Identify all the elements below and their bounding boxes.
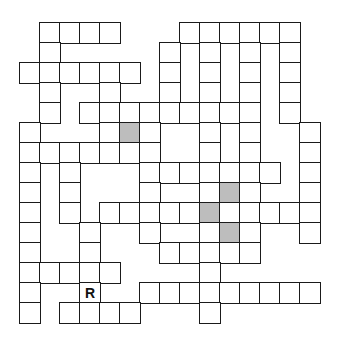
grid-cell[interactable] — [299, 182, 321, 204]
grid-cell[interactable] — [59, 162, 81, 184]
shaded-cell[interactable] — [119, 122, 141, 144]
grid-cell[interactable] — [219, 282, 241, 304]
grid-cell[interactable] — [39, 42, 61, 64]
grid-cell[interactable] — [299, 162, 321, 184]
grid-cell[interactable] — [199, 122, 221, 144]
grid-cell[interactable] — [159, 102, 181, 124]
grid-cell[interactable] — [59, 62, 81, 84]
grid-cell[interactable] — [139, 122, 161, 144]
grid-cell[interactable] — [279, 282, 301, 304]
grid-cell[interactable] — [239, 202, 261, 224]
grid-cell[interactable] — [19, 182, 41, 204]
grid-cell[interactable] — [99, 82, 121, 104]
grid-cell[interactable] — [59, 202, 81, 224]
grid-cell[interactable] — [59, 142, 81, 164]
grid-cell[interactable] — [259, 202, 281, 224]
grid-cell[interactable] — [139, 202, 161, 224]
grid-cell[interactable] — [299, 282, 321, 304]
grid-cell[interactable] — [139, 182, 161, 204]
grid-cell[interactable] — [119, 142, 141, 164]
grid-cell[interactable] — [259, 282, 281, 304]
grid-cell[interactable] — [259, 22, 281, 44]
grid-cell[interactable] — [99, 122, 121, 144]
grid-cell[interactable]: R — [79, 282, 101, 304]
grid-cell[interactable] — [59, 182, 81, 204]
grid-cell[interactable] — [199, 82, 221, 104]
grid-cell[interactable] — [199, 42, 221, 64]
grid-cell[interactable] — [139, 282, 161, 304]
grid-cell[interactable] — [79, 242, 101, 264]
grid-cell[interactable] — [299, 122, 321, 144]
grid-cell[interactable] — [79, 22, 101, 44]
grid-cell[interactable] — [99, 102, 121, 124]
grid-cell[interactable] — [279, 102, 301, 124]
grid-cell[interactable] — [39, 62, 61, 84]
grid-cell[interactable] — [239, 282, 261, 304]
grid-cell[interactable] — [199, 302, 221, 324]
grid-cell[interactable] — [139, 222, 161, 244]
grid-cell[interactable] — [79, 102, 101, 124]
grid-cell[interactable] — [99, 62, 121, 84]
grid-cell[interactable] — [19, 202, 41, 224]
grid-cell[interactable] — [199, 282, 221, 304]
grid-cell[interactable] — [239, 222, 261, 244]
grid-cell[interactable] — [239, 242, 261, 264]
grid-cell[interactable] — [219, 102, 241, 124]
grid-cell[interactable] — [19, 122, 41, 144]
grid-cell[interactable] — [19, 262, 41, 284]
grid-cell[interactable] — [19, 62, 41, 84]
grid-cell[interactable] — [219, 202, 241, 224]
grid-cell[interactable] — [139, 142, 161, 164]
grid-cell[interactable] — [199, 242, 221, 264]
grid-cell[interactable] — [159, 282, 181, 304]
grid-cell[interactable] — [239, 42, 261, 64]
grid-cell[interactable] — [99, 202, 121, 224]
grid-cell[interactable] — [199, 222, 221, 244]
grid-cell[interactable] — [279, 42, 301, 64]
shaded-cell[interactable] — [219, 222, 241, 244]
grid-cell[interactable] — [159, 202, 181, 224]
grid-cell[interactable] — [199, 62, 221, 84]
grid-cell[interactable] — [99, 142, 121, 164]
grid-cell[interactable] — [199, 262, 221, 284]
grid-cell[interactable] — [299, 142, 321, 164]
grid-cell[interactable] — [179, 282, 201, 304]
grid-cell[interactable] — [179, 202, 201, 224]
grid-cell[interactable] — [79, 142, 101, 164]
grid-cell[interactable] — [179, 102, 201, 124]
grid-cell[interactable] — [159, 62, 181, 84]
grid-cell[interactable] — [179, 162, 201, 184]
grid-cell[interactable] — [299, 202, 321, 224]
grid-cell[interactable] — [239, 162, 261, 184]
grid-cell[interactable] — [39, 102, 61, 124]
grid-cell[interactable] — [279, 82, 301, 104]
grid-cell[interactable] — [159, 42, 181, 64]
grid-cell[interactable] — [219, 22, 241, 44]
grid-cell[interactable] — [119, 102, 141, 124]
grid-cell[interactable] — [19, 222, 41, 244]
grid-cell[interactable] — [99, 262, 121, 284]
grid-cell[interactable] — [59, 262, 81, 284]
grid-cell[interactable] — [79, 302, 101, 324]
shaded-cell[interactable] — [219, 182, 241, 204]
grid-cell[interactable] — [59, 302, 81, 324]
grid-cell[interactable] — [79, 262, 101, 284]
grid-cell[interactable] — [239, 182, 261, 204]
grid-cell[interactable] — [239, 122, 261, 144]
grid-cell[interactable] — [299, 222, 321, 244]
grid-cell[interactable] — [199, 102, 221, 124]
grid-cell[interactable] — [239, 82, 261, 104]
grid-cell[interactable] — [119, 202, 141, 224]
grid-cell[interactable] — [119, 302, 141, 324]
grid-cell[interactable] — [39, 22, 61, 44]
grid-cell[interactable] — [79, 222, 101, 244]
grid-cell[interactable] — [279, 62, 301, 84]
grid-cell[interactable] — [199, 142, 221, 164]
grid-cell[interactable] — [139, 162, 161, 184]
grid-cell[interactable] — [99, 302, 121, 324]
grid-cell[interactable] — [19, 302, 41, 324]
grid-cell[interactable] — [19, 242, 41, 264]
grid-cell[interactable] — [159, 242, 181, 264]
grid-cell[interactable] — [39, 142, 61, 164]
grid-cell[interactable] — [59, 22, 81, 44]
